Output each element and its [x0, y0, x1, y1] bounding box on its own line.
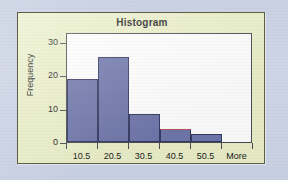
histogram-bar [129, 114, 160, 142]
x-axis-label: More [217, 151, 257, 161]
x-axis-tick [128, 143, 129, 149]
histogram-bar [191, 134, 222, 142]
x-axis-tick [252, 143, 253, 149]
x-axis-tick [159, 143, 160, 149]
y-axis-label: 30 [28, 37, 58, 47]
x-axis-tick [66, 143, 67, 149]
histogram-bar [67, 79, 98, 142]
bars-layer [67, 34, 251, 142]
plot-area [66, 33, 252, 143]
y-axis-label: 10 [28, 104, 58, 114]
scanned-page-background: Histogram Frequency 0102030 10.520.530.5… [0, 0, 288, 180]
histogram-bar [98, 57, 129, 142]
y-axis-label: 20 [28, 70, 58, 80]
x-axis-tick [190, 143, 191, 149]
x-axis-tick [221, 143, 222, 149]
chart-title: Histogram [18, 17, 266, 28]
x-axis-tick [97, 143, 98, 149]
histogram-chart-card: Histogram Frequency 0102030 10.520.530.5… [17, 12, 265, 164]
histogram-bar [160, 129, 191, 142]
y-axis-label: 0 [28, 137, 58, 147]
